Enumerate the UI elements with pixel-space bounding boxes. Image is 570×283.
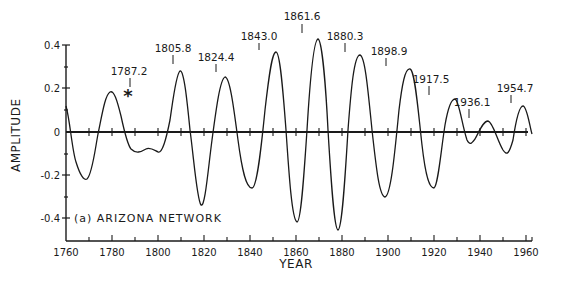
x-tick-label: 1780 <box>99 247 124 258</box>
x-tick-label: 1900 <box>375 247 400 258</box>
x-tick-label: 1940 <box>467 247 492 258</box>
x-tick-label: 1760 <box>53 247 78 258</box>
asterisk-marker-icon: * <box>123 85 133 106</box>
y-tick-label: 0.4 <box>44 40 60 51</box>
x-tick-label: 1820 <box>191 247 216 258</box>
chart-canvas: 0.4 0.2 0 -0.2 -0.4 AMPLITUDE 1760 1780 … <box>0 0 570 283</box>
x-tick-label: 1920 <box>421 247 446 258</box>
x-tick-label: 1880 <box>329 247 354 258</box>
x-tick-label: 1800 <box>145 247 170 258</box>
y-tick-label: -0.4 <box>40 213 60 224</box>
peak-label: 1861.6 <box>284 10 321 22</box>
peak-annotations: 1787.2 * 1805.8 1824.4 1843.0 1861.6 188… <box>111 10 534 118</box>
x-axis-ticks <box>89 235 532 241</box>
x-axis-title: YEAR <box>278 257 312 271</box>
peak-label: 1898.9 <box>371 45 408 57</box>
peak-label: 1880.3 <box>327 30 364 42</box>
peak-label: 1843.0 <box>241 30 278 42</box>
y-tick-label: 0 <box>54 127 60 138</box>
panel-label: (a) ARIZONA NETWORK <box>74 212 222 225</box>
peak-label: 1917.5 <box>413 73 450 85</box>
y-tick-label: 0.2 <box>44 83 60 94</box>
peak-label: 1936.1 <box>454 96 491 108</box>
peak-label: 1787.2 <box>111 65 148 77</box>
y-tick-labels: 0.4 0.2 0 -0.2 -0.4 <box>40 40 60 224</box>
peak-label: 1824.4 <box>198 51 235 63</box>
x-tick-label: 1840 <box>237 247 262 258</box>
peak-label: 1805.8 <box>155 42 192 54</box>
y-axis-title: AMPLITUDE <box>9 99 23 172</box>
y-tick-label: -0.2 <box>40 170 60 181</box>
x-tick-label: 1960 <box>513 247 538 258</box>
peak-label: 1954.7 <box>497 82 534 94</box>
